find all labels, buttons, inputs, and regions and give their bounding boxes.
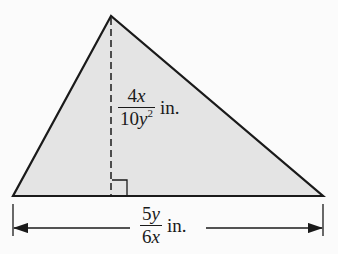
base-denominator: 6x	[140, 227, 162, 247]
base-numerator: 5y	[140, 204, 162, 224]
height-unit: in.	[160, 97, 180, 119]
height-numerator: 4x	[126, 86, 148, 106]
base-label: 5y 6x in.	[140, 204, 186, 247]
height-denominator: 10y2	[118, 109, 155, 129]
height-label: 4x 10y2 in.	[118, 86, 179, 129]
base-unit: in.	[167, 215, 187, 237]
triangle-figure: 4x 10y2 in. 5y 6x in.	[0, 0, 338, 254]
